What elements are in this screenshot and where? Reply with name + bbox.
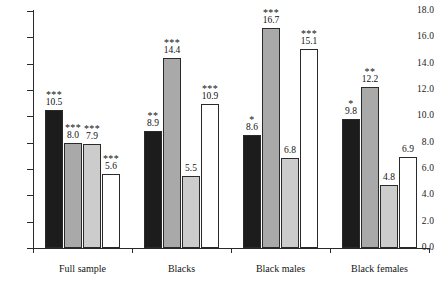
- bar: [342, 119, 360, 248]
- bar: [243, 135, 261, 248]
- bar: [201, 104, 219, 248]
- category-label: Black males: [231, 263, 330, 274]
- bar: [380, 185, 398, 248]
- bar: [144, 131, 162, 248]
- x-tick: [231, 248, 232, 253]
- category-label: Black females: [330, 263, 429, 274]
- bar: [300, 49, 318, 248]
- bar: [281, 158, 299, 248]
- x-tick: [429, 248, 430, 253]
- bar-chart: 0.02.04.06.08.010.012.014.016.018.0 ***1…: [0, 0, 434, 285]
- bar: [45, 110, 63, 248]
- bar: [399, 157, 417, 248]
- x-tick: [132, 248, 133, 253]
- category-label: Full sample: [33, 263, 132, 274]
- bar: [182, 176, 200, 248]
- x-tick: [330, 248, 331, 253]
- bar: [262, 28, 280, 248]
- bar: [102, 174, 120, 248]
- plot-area: [33, 11, 429, 248]
- category-label: Blacks: [132, 263, 231, 274]
- bar: [163, 58, 181, 248]
- bar: [64, 143, 82, 248]
- bar: [83, 144, 101, 248]
- x-tick: [33, 248, 34, 253]
- bar: [361, 87, 379, 248]
